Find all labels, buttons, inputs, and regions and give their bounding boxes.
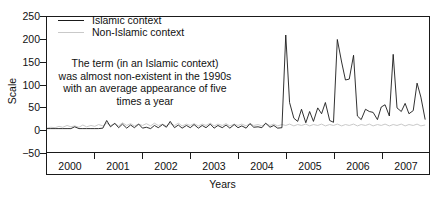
annotation-line-1: The term (in an Islamic context) [50, 57, 240, 70]
legend-item-non-islamic-context: Non-Islamic context [58, 26, 184, 38]
y-tick-label-0: 0 [0, 124, 40, 136]
y-tick-label-250: 250 [0, 10, 40, 22]
annotation-line-2: was almost non-existent in the 1990s [50, 70, 240, 83]
y-tick-label-minus50: −50 [0, 147, 40, 159]
legend-label-non-islamic-context: Non-Islamic context [92, 26, 184, 38]
x-tick-label-2000: 2000 [58, 160, 81, 172]
annotation-line-4: times a year [50, 95, 240, 108]
x-tick-label-2002: 2002 [154, 160, 177, 172]
chart-figure: 250200150100500−50 Scale 200020012002200… [0, 0, 445, 213]
x-tick-mark [286, 153, 287, 159]
x-tick-label-2005: 2005 [298, 160, 321, 172]
x-tick-label-2004: 2004 [250, 160, 273, 172]
legend-swatch-non-islamic-context [58, 32, 84, 33]
x-tick-mark [190, 153, 191, 159]
y-axis-label: Scale [6, 61, 18, 121]
y-tick-label-200: 200 [0, 33, 40, 45]
x-tick-label-2006: 2006 [346, 160, 369, 172]
x-tick-label-2003: 2003 [202, 160, 225, 172]
x-tick-mark [142, 153, 143, 159]
x-tick-mark [94, 153, 95, 159]
legend-item-islamic-context: Islamic context [58, 14, 184, 26]
chart-legend: Islamic context Non-Islamic context [58, 14, 184, 38]
x-axis-label: Years [0, 178, 445, 190]
legend-label-islamic-context: Islamic context [92, 14, 161, 26]
x-tick-mark [382, 153, 383, 159]
legend-swatch-islamic-context [58, 20, 84, 21]
x-tick-label-2007: 2007 [394, 160, 417, 172]
annotation-line-3: with an average appearance of five [50, 82, 240, 95]
x-tick-label-2001: 2001 [106, 160, 129, 172]
x-tick-mark [334, 153, 335, 159]
chart-annotation: The term (in an Islamic context) was alm… [50, 57, 240, 107]
x-tick-mark [238, 153, 239, 159]
